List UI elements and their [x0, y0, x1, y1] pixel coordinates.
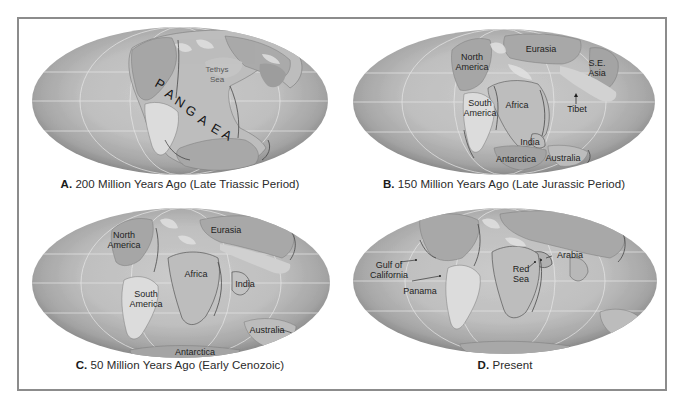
label-gulf-of-california-d: Gulf of California [370, 260, 408, 280]
label-red-sea-d: Red Sea [513, 264, 530, 284]
caption-d-text: Present [489, 359, 532, 371]
map-present [0, 0, 681, 404]
panel-d-present: Gulf of California Panama Red Sea Arabia… [0, 0, 681, 404]
label-arabia-d: Arabia [557, 250, 583, 260]
caption-d: D. Present [478, 359, 533, 371]
label-panama-d: Panama [403, 286, 437, 296]
caption-d-letter: D. [478, 359, 490, 371]
